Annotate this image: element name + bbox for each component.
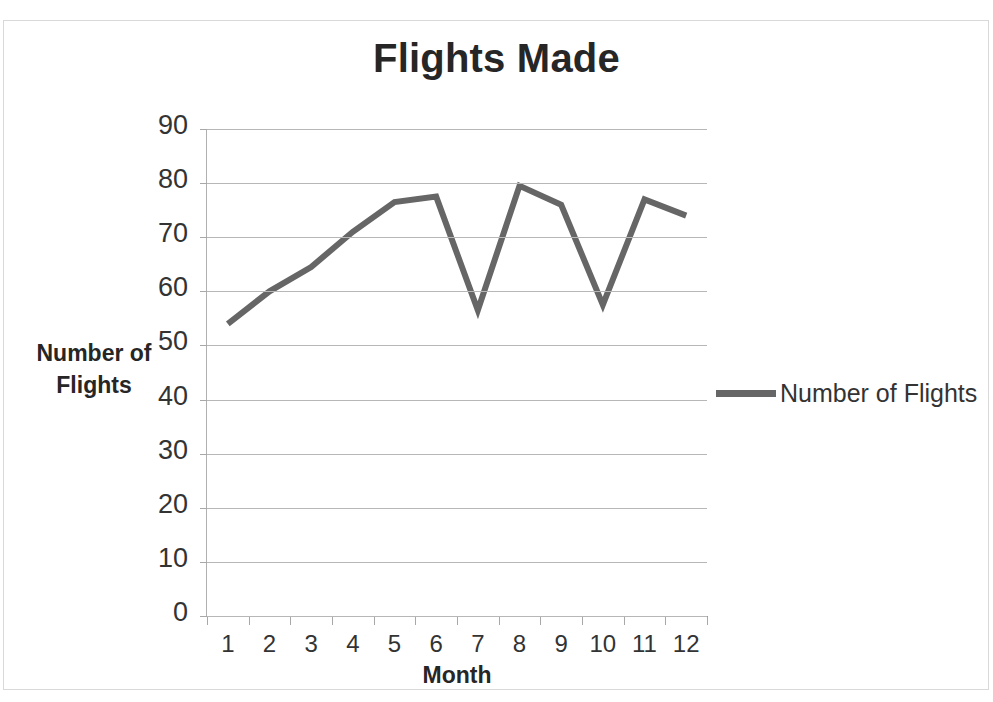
x-axis-tick-11 <box>665 617 666 625</box>
gridline-y-60 <box>207 291 707 292</box>
y-axis-tick-label-0: 0 <box>132 597 188 628</box>
gridline-y-80 <box>207 183 707 184</box>
x-axis-tick-3 <box>332 617 333 625</box>
chart-page: Flights Made 0102030405060708090 Number … <box>0 0 993 702</box>
chart-legend: Number of Flights <box>716 379 977 408</box>
gridline-y-10 <box>207 562 707 563</box>
gridline-y-70 <box>207 237 707 238</box>
gridline-y-20 <box>207 508 707 509</box>
y-axis-tick-40 <box>200 400 207 401</box>
x-axis-tick-label-9: 9 <box>540 630 582 658</box>
x-axis-tick-label-8: 8 <box>499 630 541 658</box>
y-axis-tick-80 <box>200 183 207 184</box>
y-axis-tick-label-30: 30 <box>132 435 188 466</box>
y-axis-tick-label-20: 20 <box>132 489 188 520</box>
y-axis-tick-label-70: 70 <box>132 218 188 249</box>
x-axis-tick-1 <box>249 617 250 625</box>
y-axis-title: Number of Flights <box>24 337 164 401</box>
x-axis-tick-7 <box>499 617 500 625</box>
gridline-y-30 <box>207 454 707 455</box>
y-axis-tick-label-60: 60 <box>132 272 188 303</box>
x-axis-title: Month <box>207 662 707 689</box>
x-axis-tick-2 <box>290 617 291 625</box>
y-axis-tick-50 <box>200 345 207 346</box>
x-axis-tick-8 <box>540 617 541 625</box>
plot-area <box>207 129 707 616</box>
y-axis-tick-70 <box>200 237 207 238</box>
gridline-y-50 <box>207 345 707 346</box>
y-axis-tick-label-90: 90 <box>132 110 188 141</box>
x-axis-tick-label-11: 11 <box>624 630 666 658</box>
gridline-y-40 <box>207 400 707 401</box>
x-axis-tick-label-7: 7 <box>457 630 499 658</box>
x-axis-tick-label-10: 10 <box>582 630 624 658</box>
y-axis-tick-20 <box>200 508 207 509</box>
legend-label-number-of-flights: Number of Flights <box>780 379 977 408</box>
x-axis-tick-4 <box>374 617 375 625</box>
x-axis-tick-5 <box>415 617 416 625</box>
x-axis-tick-0 <box>207 617 208 625</box>
x-axis-tick-label-2: 2 <box>249 630 291 658</box>
y-axis-tick-10 <box>200 562 207 563</box>
x-axis-tick-9 <box>582 617 583 625</box>
series-line-number-of-flights <box>207 129 707 616</box>
x-axis-tick-label-4: 4 <box>332 630 374 658</box>
y-axis-tick-90 <box>200 129 207 130</box>
gridline-y-90 <box>207 129 707 130</box>
legend-swatch-number-of-flights <box>716 390 776 397</box>
x-axis-tick-label-5: 5 <box>374 630 416 658</box>
x-axis-tick-label-6: 6 <box>415 630 457 658</box>
y-axis-tick-label-80: 80 <box>132 164 188 195</box>
y-axis-tick-label-10: 10 <box>132 543 188 574</box>
y-axis-tick-0 <box>200 616 207 617</box>
x-axis-tick-label-1: 1 <box>207 630 249 658</box>
y-axis-tick-30 <box>200 454 207 455</box>
x-axis-tick-label-12: 12 <box>665 630 707 658</box>
x-axis-tick-12 <box>707 617 708 625</box>
x-axis-tick-6 <box>457 617 458 625</box>
x-axis-tick-label-3: 3 <box>290 630 332 658</box>
y-axis-tick-60 <box>200 291 207 292</box>
x-axis-tick-10 <box>624 617 625 625</box>
